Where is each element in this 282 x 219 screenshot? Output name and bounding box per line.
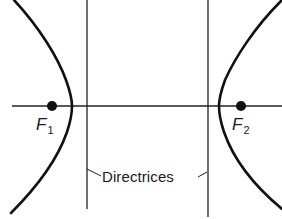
directrices-label: Directrices <box>102 169 174 184</box>
focus-f2-point <box>236 101 246 111</box>
right-hyperbola-branch <box>219 1 282 209</box>
right-directrix-leader <box>198 172 207 177</box>
focus-f1-symbol: F <box>36 115 46 134</box>
focus-f1-label: F1 <box>36 116 54 133</box>
focus-f2-subscript: 2 <box>243 124 249 136</box>
left-directrix-leader <box>87 169 101 176</box>
hyperbola-diagram <box>0 0 282 219</box>
focus-f2-label: F2 <box>232 116 250 133</box>
focus-f2-symbol: F <box>232 115 242 134</box>
focus-f1-subscript: 1 <box>47 124 53 136</box>
focus-f1-point <box>47 101 57 111</box>
